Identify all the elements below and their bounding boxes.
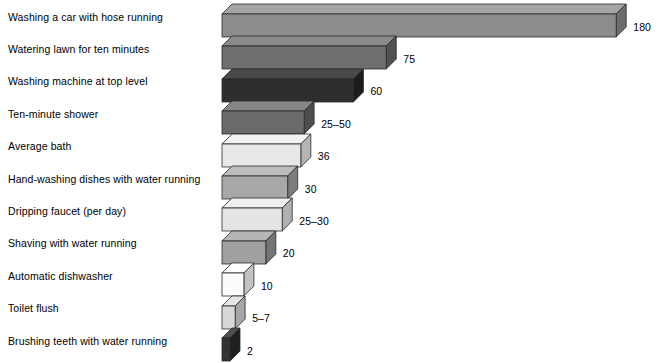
value-label: 25–50 xyxy=(321,118,351,130)
value-label: 36 xyxy=(318,150,330,162)
value-label: 2 xyxy=(247,345,253,357)
value-label: 10 xyxy=(261,280,273,292)
value-label: 5–7 xyxy=(252,312,270,324)
category-label: Shaving with water running xyxy=(8,237,137,249)
bar-11 xyxy=(222,328,242,363)
value-label: 20 xyxy=(283,247,295,259)
bar-front-face xyxy=(222,241,266,264)
bar-top-face xyxy=(222,4,626,14)
value-label: 30 xyxy=(305,183,317,195)
bar-5 xyxy=(222,134,313,169)
bar-7 xyxy=(222,198,294,233)
category-label: Watering lawn for ten minutes xyxy=(8,43,149,55)
bar-front-face xyxy=(222,144,301,167)
value-label: 180 xyxy=(633,21,651,33)
category-label: Automatic dishwasher xyxy=(8,270,113,282)
bar-front-face xyxy=(222,306,235,329)
bar-3 xyxy=(222,69,365,104)
category-label: Brushing teeth with water running xyxy=(8,335,167,347)
category-label: Washing a car with hose running xyxy=(8,11,163,23)
bar-4 xyxy=(222,101,316,136)
bar-9 xyxy=(222,263,256,298)
bar-front-face xyxy=(222,14,616,37)
bar-front-face xyxy=(222,338,230,361)
bar-top-face xyxy=(222,69,363,79)
bar-front-face xyxy=(222,46,386,69)
category-label: Dripping faucet (per day) xyxy=(8,205,126,217)
bar-8 xyxy=(222,231,278,266)
bar-top-face xyxy=(222,166,298,176)
bar-2 xyxy=(222,36,398,71)
bar-front-face xyxy=(222,79,353,102)
value-label: 25–30 xyxy=(299,215,329,227)
bar-front-face xyxy=(222,273,244,296)
bar-front-face xyxy=(222,176,288,199)
value-label: 75 xyxy=(403,53,415,65)
bar-top-face xyxy=(222,134,311,144)
bar-top-face xyxy=(222,198,292,208)
bar-front-face xyxy=(222,208,282,231)
bar-top-face xyxy=(222,36,396,46)
category-label: Hand-washing dishes with water running xyxy=(8,173,200,185)
category-label: Average bath xyxy=(8,140,71,152)
bar-6 xyxy=(222,166,300,201)
bar-10 xyxy=(222,296,247,331)
bar-front-face xyxy=(222,111,304,134)
bar-1 xyxy=(222,4,628,39)
category-label: Washing machine at top level xyxy=(8,75,148,87)
value-label: 60 xyxy=(370,85,382,97)
category-label: Ten-minute shower xyxy=(8,108,98,120)
bar-top-face xyxy=(222,101,314,111)
category-label: Toilet flush xyxy=(8,302,59,314)
